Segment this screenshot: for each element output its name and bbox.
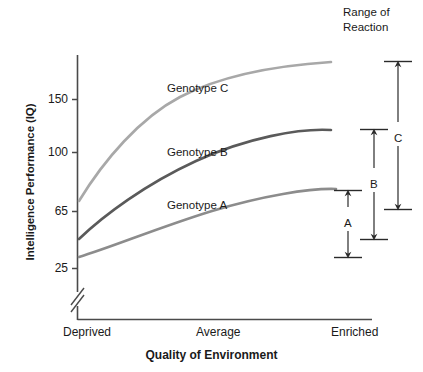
range-letter-a: A: [344, 217, 352, 229]
y-tick-label-25: 25: [28, 261, 68, 275]
y-tick-label-65: 65: [28, 204, 68, 218]
range-letter-b: B: [370, 178, 378, 190]
range-title-line-1: Range of: [343, 6, 390, 18]
range-letter-c: C: [394, 132, 402, 144]
x-tick-label-enriched: Enriched: [331, 325, 378, 339]
y-tick-marks: [72, 100, 78, 269]
x-tick-label-deprived: Deprived: [63, 325, 111, 339]
range-of-reaction-title: Range of Reaction: [343, 5, 419, 35]
x-axis-title: Quality of Environment: [0, 348, 423, 362]
curve-label-genotype-a: Genotype A: [167, 199, 227, 211]
chart-canvas: [0, 0, 423, 372]
curve-label-genotype-b: Genotype B: [167, 146, 228, 158]
axis-lines: [71, 55, 372, 320]
y-tick-label-150: 150: [28, 92, 68, 106]
x-tick-label-average: Average: [196, 325, 240, 339]
curve-label-genotype-c: Genotype C: [167, 82, 228, 94]
range-title-line-2: Reaction: [343, 21, 388, 33]
y-axis-title: Intelligence Performance (IQ): [24, 82, 36, 282]
range-of-reaction-chart: Intelligence Performance (IQ) 150 100 65…: [0, 0, 423, 372]
y-tick-label-100: 100: [28, 145, 68, 159]
